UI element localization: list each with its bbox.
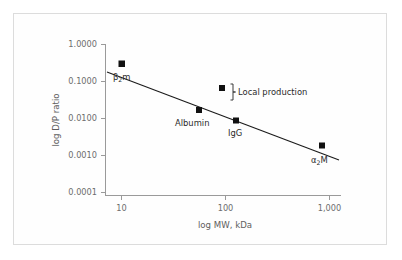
x-axis-title: log MW, kDa [198, 220, 252, 230]
y-tick-label-1: 1.0000 [68, 39, 97, 49]
scatter-plot: 1.0000 0.1000 0.0100 0.0010 0.0001 10 10… [0, 0, 402, 260]
data-point-a2m [319, 143, 325, 149]
y-tick-label-3: 0.0100 [68, 113, 97, 123]
data-point-b2m [119, 61, 126, 68]
data-markers [119, 61, 326, 149]
a2m-tail: M [320, 155, 327, 165]
y-axis-title: log D/P ratio [51, 93, 61, 146]
data-label-b2m: β2m [113, 72, 130, 83]
b2m-tail: m [122, 72, 130, 82]
axis-lines [106, 44, 342, 196]
y-tick-labels: 1.0000 0.1000 0.0100 0.0010 0.0001 [68, 39, 97, 197]
x-tick-label-100: 100 [218, 203, 234, 213]
local-production-annotation: Local production [231, 84, 308, 100]
data-label-igg: IgG [228, 128, 242, 138]
x-tick-label-10: 10 [116, 203, 126, 213]
x-tick-label-1000: 1,000 [318, 203, 341, 213]
y-tick-label-2: 0.1000 [68, 76, 97, 86]
data-point-local-production-outlier [219, 85, 225, 91]
data-point-igg [233, 118, 239, 124]
y-tick-label-5: 0.0001 [68, 187, 97, 197]
data-point-albumin [196, 107, 202, 113]
x-tick-labels: 10 100 1,000 [116, 203, 341, 213]
local-production-label: Local production [238, 87, 307, 97]
data-label-a2m: α2M [311, 155, 328, 166]
figure-root: 1.0000 0.1000 0.0100 0.0010 0.0001 10 10… [0, 0, 402, 260]
axis-group [101, 44, 341, 200]
y-tick-label-4: 0.0010 [68, 150, 97, 160]
data-label-albumin: Albumin [175, 118, 209, 128]
local-production-bracket [231, 84, 236, 100]
